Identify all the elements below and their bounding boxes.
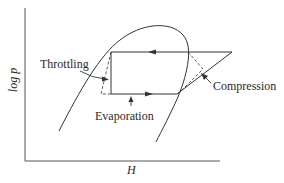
x-axis-label: H: [127, 164, 136, 176]
arrow-left-icon: [148, 50, 156, 55]
axes: [25, 8, 220, 161]
throttling-arrowhead-icon: [102, 77, 109, 82]
saturation-dome: [59, 26, 189, 142]
evaporation-arrowhead-icon: [129, 96, 134, 102]
evaporation-label: Evaporation: [95, 110, 154, 122]
y-axis-label: log p: [7, 63, 19, 97]
throttling-label: Throttling: [40, 58, 89, 70]
compression-label: Compression: [213, 80, 276, 92]
arrow-right-icon: [145, 92, 153, 97]
